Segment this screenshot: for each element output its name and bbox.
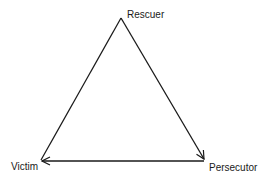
edge-rescuer-persecutor [121, 18, 204, 159]
edge-victim-rescuer [41, 18, 121, 160]
node-label-persecutor: Persecutor [209, 163, 257, 173]
triangle-edges [0, 0, 267, 184]
drama-triangle-diagram: Rescuer Victim Persecutor [0, 0, 267, 184]
node-label-victim: Victim [11, 162, 38, 172]
node-label-rescuer: Rescuer [127, 10, 164, 20]
